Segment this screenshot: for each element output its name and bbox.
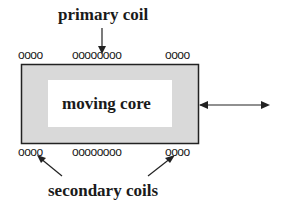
secondary-coil-right: oooo [165,146,190,158]
moving-core-label: moving core [62,94,151,114]
arrowhead-left [199,101,208,109]
secondary-coils-label: secondary coils [48,181,158,201]
secondary-pointer-right [148,158,171,176]
primary-coil-left: oooo [18,49,43,61]
primary-coil-right: oooo [165,49,190,61]
secondary-coil-center: oooooooo [72,146,121,158]
secondary-coil-left: oooo [18,146,43,158]
primary-coil-label: primary coil [58,5,148,25]
primary-coil-center: oooooooo [72,49,121,61]
arrowhead-right [261,101,270,109]
